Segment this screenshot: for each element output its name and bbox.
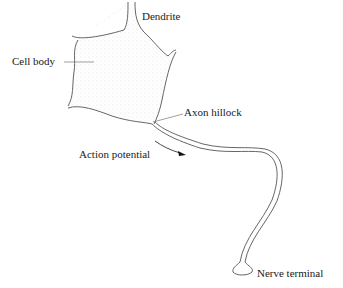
- label-axon-hillock: Axon hillock: [184, 107, 242, 118]
- neuron-drawing: [0, 0, 343, 288]
- action-potential-arrow-line: [155, 141, 180, 153]
- axon-inner-line: [155, 122, 282, 262]
- label-action-potential: Action potential: [79, 149, 150, 160]
- neuron-diagram: Dendrite Cell body Axon hillock Action p…: [0, 0, 343, 288]
- nerve-terminal-bulb: [233, 262, 253, 275]
- label-nerve-terminal: Nerve terminal: [257, 268, 323, 279]
- label-dendrite: Dendrite: [142, 11, 180, 22]
- action-potential-arrowhead-icon: [178, 151, 186, 156]
- axon-outer-line: [152, 124, 277, 262]
- label-cell-body: Cell body: [12, 56, 55, 67]
